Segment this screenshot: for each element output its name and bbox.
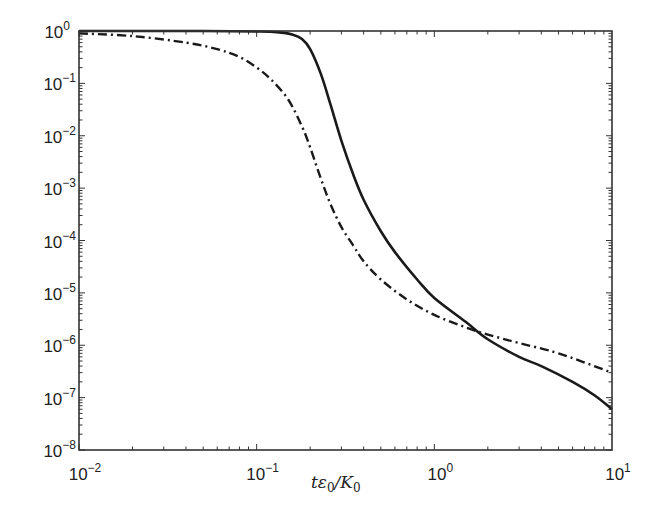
y-tick-label: 10−1	[43, 71, 76, 94]
log-log-chart: 10010−110−210−310−410−510−610−710−8 10−2…	[0, 0, 647, 519]
x-axis-label: tε0/K0	[311, 472, 361, 495]
x-tick-label: 101	[605, 461, 631, 484]
series-layer	[79, 31, 612, 409]
solid-curve	[79, 31, 612, 409]
y-tick-label: 10−3	[43, 176, 76, 199]
y-tick-label: 10−8	[43, 438, 76, 461]
dash-dot-curve	[79, 33, 612, 372]
x-tick-label: 10−1	[246, 461, 279, 484]
y-tick-label: 10−2	[43, 124, 76, 147]
y-tick-label: 10−5	[43, 281, 76, 304]
x-tick-label: 100	[428, 461, 454, 484]
y-tick-label: 100	[44, 19, 70, 42]
y-tick-labels: 10010−110−210−310−410−510−610−710−8	[43, 19, 76, 461]
minor-ticks	[79, 31, 612, 450]
y-tick-label: 10−7	[43, 386, 76, 409]
x-tick-label: 10−2	[69, 461, 102, 484]
axes-frame	[79, 31, 612, 450]
y-tick-label: 10−4	[43, 229, 76, 252]
y-tick-label: 10−6	[43, 333, 76, 356]
